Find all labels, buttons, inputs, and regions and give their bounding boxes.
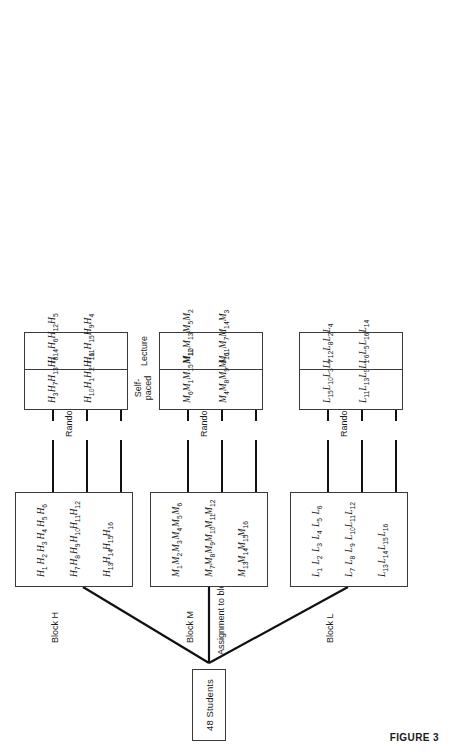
block-to-assignment-connector bbox=[52, 440, 54, 492]
block-unit-grid: L1L2L3L4L5L6L7L8L9L10L11L12L13L14L15L16 bbox=[291, 493, 407, 586]
block-l-assignment-box: L15L10L3L7L11L13L9L1L12L8L2L4L6L5L16L14 bbox=[299, 332, 403, 410]
cell-row: H14H6H12H5 bbox=[34, 339, 70, 364]
cell-row: L6L5L16L14 bbox=[345, 339, 381, 364]
block-to-assignment-connector bbox=[221, 440, 223, 492]
cell-row: M13M14M15M16 bbox=[226, 502, 259, 577]
block-m-group-self-paced: M6M1M15M12M4M8M9M16 bbox=[160, 373, 262, 410]
cell-row: M7M8M9M10M11M12 bbox=[193, 502, 226, 577]
block-to-assignment-connector bbox=[120, 440, 122, 492]
unit-cell: H12 bbox=[58, 502, 91, 516]
unit-cell: M11 bbox=[205, 349, 241, 364]
unit-cell: L15 bbox=[309, 390, 345, 403]
unit-cell: L5 bbox=[300, 515, 333, 528]
unit-cell: M16 bbox=[226, 523, 259, 537]
cell-row: H7H8H9H10H11H12 bbox=[58, 502, 91, 577]
unit-cell: L16 bbox=[366, 523, 399, 537]
cell-row: M4M8M9M16 bbox=[205, 379, 241, 404]
self-paced-label-line2: paced bbox=[143, 376, 153, 401]
unit-cell: H15 bbox=[91, 537, 124, 551]
figure-caption: FIGURE 3 bbox=[390, 732, 439, 743]
cell-row: H3H7H13H8 bbox=[34, 379, 70, 404]
cell-row: H13H14H15H16 bbox=[91, 502, 124, 577]
unit-cell: L1 bbox=[300, 565, 333, 578]
unit-cell: L13 bbox=[366, 564, 399, 578]
unit-cell: L4 bbox=[309, 323, 345, 332]
unit-cell: H12 bbox=[34, 324, 70, 338]
block-m-box: M1M2M3M4M5M6M7M8M9M10M11M12M13M14M15M16 bbox=[150, 492, 268, 587]
unit-cell: H1 bbox=[25, 565, 58, 578]
unit-cell: H3 bbox=[34, 392, 70, 403]
unit-cell: M8 bbox=[193, 554, 226, 566]
cell-row: M6M1M15M12 bbox=[169, 379, 205, 404]
block-to-assignment-connector bbox=[327, 440, 329, 492]
unit-cell: L14 bbox=[345, 320, 381, 333]
block-to-assignment-connector bbox=[86, 440, 88, 492]
unit-cell: M4 bbox=[205, 391, 241, 403]
unit-cell: M6 bbox=[169, 391, 205, 403]
unit-cell: L8 bbox=[333, 552, 366, 564]
unit-cell: L14 bbox=[366, 550, 399, 564]
unit-cell: M6 bbox=[160, 502, 193, 515]
unit-cell: L9 bbox=[333, 540, 366, 552]
unit-cell: H1 bbox=[70, 378, 106, 389]
group-unit-grid: M6M1M15M12M4M8M9M16 bbox=[160, 373, 262, 410]
unit-cell: L2 bbox=[300, 552, 333, 565]
group-unit-grid: M10M13M5M2M11M7M14M3 bbox=[160, 333, 262, 370]
unit-cell: H6 bbox=[34, 338, 70, 349]
block-m-assignment-box: M6M1M15M12M4M8M9M16M10M13M5M2M11M7M14M3 bbox=[159, 332, 263, 410]
unit-cell: L10 bbox=[333, 527, 366, 540]
cell-row: L11L13L9L1 bbox=[345, 379, 381, 404]
unit-cell: M10 bbox=[169, 348, 205, 363]
unit-cell: H13 bbox=[91, 564, 124, 578]
unit-cell: H16 bbox=[91, 523, 124, 537]
block-h-label: Block H bbox=[50, 612, 60, 643]
block-to-assignment-connector bbox=[255, 440, 257, 492]
unit-cell: H10 bbox=[70, 389, 106, 403]
block-l-box: L1L2L3L4L5L6L7L8L9L10L11L12L13L14L15L16 bbox=[290, 492, 408, 587]
unit-cell: L11 bbox=[345, 391, 381, 403]
unit-cell: L8 bbox=[309, 342, 345, 351]
unit-cell: H4 bbox=[25, 527, 58, 540]
unit-cell: L7 bbox=[333, 565, 366, 577]
self-paced-label-line1: Self- bbox=[133, 379, 143, 398]
unit-cell: L2 bbox=[309, 332, 345, 341]
unit-cell: M10 bbox=[193, 528, 226, 542]
unit-cell: L15 bbox=[366, 537, 399, 551]
group-unit-grid: H14H6H12H5H11H15H9H4 bbox=[25, 333, 127, 370]
unit-cell: M1 bbox=[160, 565, 193, 578]
block-h-box: H1H2H3H4H5H6H7H8H9H10H11H12H13H14H15H16 bbox=[15, 492, 133, 587]
unit-cell: L6 bbox=[345, 354, 381, 363]
unit-cell: M8 bbox=[205, 380, 241, 392]
unit-cell: L13 bbox=[345, 378, 381, 391]
unit-cell: L12 bbox=[309, 351, 345, 364]
unit-cell: H6 bbox=[25, 502, 58, 515]
unit-cell: H15 bbox=[70, 335, 106, 349]
unit-cell: M4 bbox=[160, 527, 193, 540]
block-m-group-lecture: M10M13M5M2M11M7M14M3 bbox=[160, 333, 262, 371]
block-to-assignment-connector bbox=[395, 440, 397, 492]
root-node-48-students: 48 Students bbox=[192, 669, 226, 741]
unit-cell: M3 bbox=[205, 310, 241, 322]
block-h-assignment-box: H3H7H13H8H10H1H2H16H14H6H12H5H11H15H9H4 bbox=[24, 332, 128, 410]
block-to-assignment-connector bbox=[361, 440, 363, 492]
unit-cell: H9 bbox=[70, 324, 106, 335]
unit-cell: M9 bbox=[193, 542, 226, 554]
unit-cell: M7 bbox=[205, 337, 241, 349]
group-unit-grid: L12L8L2L4L6L5L16L14 bbox=[300, 333, 402, 370]
self-paced-label: Self-paced bbox=[133, 372, 154, 404]
unit-cell: M13 bbox=[226, 564, 259, 578]
assignment-entry-tick bbox=[361, 410, 363, 421]
unit-cell: H14 bbox=[34, 349, 70, 363]
unit-cell: H2 bbox=[25, 552, 58, 565]
cell-row: L12L8L2L4 bbox=[309, 339, 345, 364]
cell-row: L1L2L3L4L5L6 bbox=[300, 502, 333, 577]
unit-cell: L12 bbox=[333, 502, 366, 515]
block-h-group-lecture: H14H6H12H5H11H15H9H4 bbox=[25, 333, 127, 371]
unit-cell: M15 bbox=[226, 537, 259, 551]
block-unit-grid: H1H2H3H4H5H6H7H8H9H10H11H12H13H14H15H16 bbox=[16, 493, 132, 586]
unit-cell: M13 bbox=[169, 333, 205, 348]
lecture-label: Lecture bbox=[139, 336, 149, 366]
unit-cell: H14 bbox=[91, 550, 124, 564]
unit-cell: H11 bbox=[58, 516, 91, 530]
unit-cell: L10 bbox=[309, 377, 345, 390]
